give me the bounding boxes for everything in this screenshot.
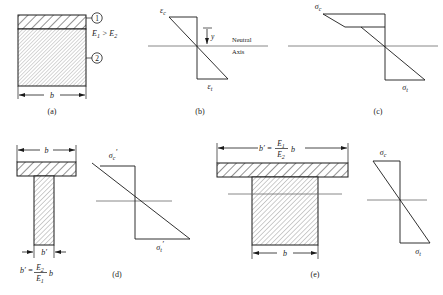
panel-d-caption: (d) (112, 270, 122, 279)
panel-e-caption: (e) (311, 270, 320, 279)
panel-a-modulus-E2-sub: 2 (114, 33, 117, 39)
panel-a-width-label: b (50, 91, 54, 100)
panel-e-formula-lhs: b′ = (259, 144, 272, 153)
panel-d-formula: b′ = E2 E1 b (20, 263, 53, 284)
panel-d-formula-tail: b (49, 269, 53, 278)
panel-c-stress-tension-label: σt (402, 83, 408, 93)
panel-b-neutral-axis-label-line2: Axis (232, 48, 245, 55)
panel-c-stress-diagonal (361, 27, 425, 80)
panel-d-formula-denominator: E1 (35, 274, 44, 284)
panel-e-stress-tension-label: σt (415, 247, 421, 257)
panel-e-stress-diagonal (373, 161, 430, 243)
panel-e-width-label: b (283, 249, 287, 258)
panel-b-strain-diagonal (169, 17, 228, 79)
panel-d-stress-compression-label: σc′ (109, 148, 118, 161)
panel-b-strain-compression-label: εc (160, 6, 166, 16)
panel-b-neutral-axis-label-line1: Neutral (232, 36, 252, 43)
panel-a-modulus-relation: E1 > E2 (91, 29, 117, 39)
panel-d-formula-lhs: b′ = (20, 266, 33, 275)
panel-a-material2-block (18, 29, 86, 86)
composite-beam-figure: 1 2 E1 > E2 b (a) εc εt (0, 0, 443, 295)
panel-a-modulus-op: > E (100, 29, 114, 38)
panel-e-formula-denominator: E2 (276, 150, 285, 160)
panel-c-caption: (c) (374, 107, 383, 116)
panel-d-formula-numerator: E2 (35, 263, 44, 273)
panel-d: b b′ b′ = E2 E1 b (17, 145, 190, 284)
panel-e-formula-tail: b (291, 145, 295, 154)
panel-c: σc σt (c) (288, 2, 438, 116)
panel-e-web (252, 177, 318, 245)
panel-b-y-label: y (210, 32, 215, 41)
panel-d-web-width-label: b′ (41, 248, 47, 257)
panel-e: b′ = E1 E2 b b σc (217, 139, 430, 279)
panel-a-tag-2-label: 2 (95, 54, 99, 63)
panel-d-web (34, 176, 54, 245)
panel-e-formula: b′ = E1 E2 b (259, 139, 295, 160)
panel-e-stress-compression-label: σc (380, 148, 387, 158)
panel-c-material1-slope (323, 14, 345, 27)
panel-a-material1-block (18, 15, 86, 29)
panel-d-flange (17, 162, 76, 176)
panel-a: 1 2 E1 > E2 b (a) (18, 13, 117, 116)
panel-d-stress-tension-label: σt′ (156, 240, 164, 253)
panel-e-flange (217, 163, 348, 177)
panel-a-caption: (a) (48, 107, 57, 116)
panel-a-tag-1-label: 1 (95, 14, 99, 23)
panel-d-width-label: b (45, 146, 49, 155)
panel-e-formula-numerator: E1 (276, 139, 285, 149)
panel-b-strain-tension-label: εt (208, 82, 213, 92)
panel-c-stress-compression-label: σc (315, 2, 322, 12)
panel-b-caption: (b) (195, 107, 205, 116)
panel-b: εc εt y Neutral Axis (b) (148, 6, 268, 116)
